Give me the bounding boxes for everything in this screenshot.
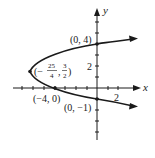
parabola-graph: y x 2 2 (0, 4) (− 25 4 , 3 2 ) (−4, 0) (… — [0, 0, 155, 158]
point-vertex — [28, 70, 32, 74]
svg-text:4: 4 — [50, 72, 54, 80]
svg-text:2: 2 — [63, 72, 67, 80]
y-tick-label: 2 — [87, 61, 92, 72]
x-axis-arrow-icon — [133, 85, 141, 91]
point-y-intercept-top — [95, 42, 99, 46]
svg-text:(−: (− — [34, 66, 43, 78]
label-vertex: (− 25 4 , 3 2 ) — [34, 62, 71, 80]
label-x-intercept: (−4, 0) — [33, 93, 60, 105]
x-tick-label: 2 — [114, 92, 119, 103]
svg-text:): ) — [68, 66, 71, 78]
svg-text:,: , — [58, 66, 61, 77]
x-axis-label: x — [142, 81, 148, 93]
point-y-intercept-bottom — [95, 97, 99, 101]
svg-text:25: 25 — [48, 62, 56, 70]
point-x-intercept — [53, 86, 57, 90]
y-axis-arrow-icon — [94, 8, 100, 16]
y-axis — [94, 8, 100, 140]
y-axis-label: y — [102, 4, 108, 16]
curve-arrow-top-icon — [129, 36, 138, 43]
label-y-intercept-bottom: (0, −1) — [64, 102, 91, 114]
x-axis — [13, 85, 141, 91]
svg-text:3: 3 — [63, 62, 67, 70]
label-y-intercept-top: (0, 4) — [70, 34, 92, 46]
curve-arrow-bottom-icon — [129, 103, 138, 110]
